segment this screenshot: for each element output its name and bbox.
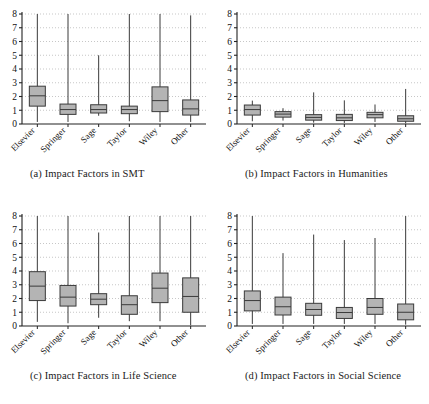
x-axis-label-other: Other — [169, 327, 191, 349]
y-tick-label-1: 1 — [12, 308, 17, 318]
box-rect — [60, 285, 76, 306]
y-tick-label-2: 2 — [12, 294, 17, 304]
plot-c: 012345678ElsevierSpringerSageTaylorWiley… — [0, 202, 212, 370]
y-tick-label-7: 7 — [227, 23, 232, 33]
x-axis-label-springer: Springer — [253, 327, 282, 356]
y-tick-label-0: 0 — [227, 119, 232, 129]
x-axis-label-springer: Springer — [253, 125, 282, 154]
box-elsevier — [29, 216, 45, 322]
y-tick-label-1: 1 — [227, 106, 232, 116]
box-taylor — [336, 100, 352, 123]
y-tick-label-8: 8 — [12, 9, 17, 19]
y-tick-label-5: 5 — [12, 51, 17, 61]
x-axis-label-sage: Sage — [294, 125, 313, 144]
y-tick-label-3: 3 — [227, 280, 232, 290]
y-tick-label-8: 8 — [227, 211, 232, 221]
box-other — [398, 216, 414, 325]
boxplot-svg-d: 012345678ElsevierSpringerSageTaylorWiley… — [215, 202, 427, 370]
box-wiley — [367, 104, 383, 121]
plot-d: 012345678ElsevierSpringerSageTaylorWiley… — [215, 202, 427, 370]
y-tick-label-5: 5 — [227, 253, 232, 263]
box-taylor — [121, 216, 137, 321]
y-tick-label-8: 8 — [12, 211, 17, 221]
box-springer — [60, 216, 76, 323]
y-tick-label-4: 4 — [12, 64, 17, 74]
y-tick-label-3: 3 — [227, 78, 232, 88]
panel-b: 012345678ElsevierSpringerSageTaylorWiley… — [215, 0, 429, 202]
y-tick-label-2: 2 — [227, 92, 232, 102]
box-wiley — [152, 216, 168, 321]
x-axis-label-elsevier: Elsevier — [9, 125, 37, 153]
x-axis-label-other: Other — [384, 327, 406, 349]
caption-c: (c) Impact Factors in Life Science — [30, 370, 177, 381]
box-elsevier — [244, 101, 260, 122]
box-rect — [275, 297, 291, 315]
boxplot-svg-c: 012345678ElsevierSpringerSageTaylorWiley… — [0, 202, 212, 370]
y-tick-label-7: 7 — [12, 23, 17, 33]
panel-a: 012345678ElsevierSpringerSageTaylorWiley… — [0, 0, 215, 202]
y-tick-label-5: 5 — [12, 253, 17, 263]
x-axis-label-elsevier: Elsevier — [224, 327, 252, 355]
box-elsevier — [244, 216, 260, 324]
box-rect — [367, 299, 383, 315]
y-tick-label-0: 0 — [227, 321, 232, 331]
x-axis-label-sage: Sage — [294, 327, 313, 346]
x-axis-label-other: Other — [384, 125, 406, 147]
box-other — [398, 89, 414, 123]
caption-b: (b) Impact Factors in Humanities — [245, 168, 388, 179]
x-axis-label-sage: Sage — [79, 125, 98, 144]
x-axis-label-springer: Springer — [38, 125, 67, 154]
y-tick-label-8: 8 — [227, 9, 232, 19]
y-tick-label-1: 1 — [227, 308, 232, 318]
x-axis-label-taylor: Taylor — [320, 327, 344, 351]
x-axis-label-taylor: Taylor — [105, 125, 129, 149]
box-rect — [183, 278, 199, 312]
box-sage — [91, 233, 107, 318]
box-springer — [60, 14, 76, 122]
x-axis-label-taylor: Taylor — [320, 125, 344, 149]
caption-d: (d) Impact Factors in Social Science — [245, 370, 401, 381]
y-tick-label-6: 6 — [12, 239, 17, 249]
caption-a: (a) Impact Factors in SMT — [30, 168, 144, 179]
box-wiley — [367, 238, 383, 324]
box-rect — [183, 100, 199, 115]
x-axis-label-other: Other — [169, 125, 191, 147]
box-rect — [91, 105, 107, 113]
y-tick-label-6: 6 — [227, 37, 232, 47]
box-sage — [306, 92, 322, 122]
x-axis-label-elsevier: Elsevier — [224, 125, 252, 153]
y-tick-label-1: 1 — [12, 106, 17, 116]
box-rect — [152, 87, 168, 112]
x-axis-label-wiley: Wiley — [137, 327, 160, 350]
x-axis-label-sage: Sage — [79, 327, 98, 346]
y-tick-label-0: 0 — [12, 119, 17, 129]
panel-c: 012345678ElsevierSpringerSageTaylorWiley… — [0, 202, 215, 404]
y-tick-label-7: 7 — [12, 225, 17, 235]
y-tick-label-3: 3 — [12, 280, 17, 290]
plot-b: 012345678ElsevierSpringerSageTaylorWiley… — [215, 0, 427, 168]
x-axis-label-wiley: Wiley — [352, 327, 375, 350]
y-tick-label-6: 6 — [227, 239, 232, 249]
panel-d: 012345678ElsevierSpringerSageTaylorWiley… — [215, 202, 429, 404]
y-tick-label-4: 4 — [12, 266, 17, 276]
y-tick-label-2: 2 — [12, 92, 17, 102]
box-sage — [306, 235, 322, 324]
box-wiley — [152, 14, 168, 122]
x-axis-label-elsevier: Elsevier — [9, 327, 37, 355]
plot-a: 012345678ElsevierSpringerSageTaylorWiley… — [0, 0, 212, 168]
y-tick-label-3: 3 — [12, 78, 17, 88]
y-tick-label-2: 2 — [227, 294, 232, 304]
boxplot-svg-a: 012345678ElsevierSpringerSageTaylorWiley… — [0, 0, 212, 168]
y-tick-label-4: 4 — [227, 266, 232, 276]
box-springer — [275, 253, 291, 324]
box-elsevier — [29, 14, 45, 122]
x-axis-label-taylor: Taylor — [105, 327, 129, 351]
x-axis-label-wiley: Wiley — [137, 125, 160, 148]
y-tick-label-0: 0 — [12, 321, 17, 331]
box-sage — [91, 55, 107, 116]
y-tick-label-7: 7 — [227, 225, 232, 235]
y-tick-label-5: 5 — [227, 51, 232, 61]
y-tick-label-6: 6 — [12, 37, 17, 47]
boxplot-svg-b: 012345678ElsevierSpringerSageTaylorWiley… — [215, 0, 427, 168]
box-taylor — [121, 14, 137, 121]
